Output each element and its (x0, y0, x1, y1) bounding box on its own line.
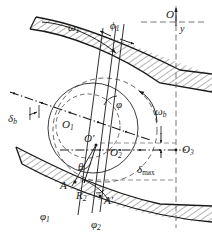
upper-hatched-band (30, 17, 212, 92)
slot-line-mid (92, 26, 116, 213)
label-omega-b: ωb (155, 106, 167, 119)
label-origin-O: O (166, 9, 174, 20)
angle-arcs (78, 96, 117, 193)
dimension-arrow-delta-b (29, 105, 39, 120)
label-O-2: O2 (110, 147, 122, 160)
diagram-canvas (0, 0, 212, 245)
label-axis-y: y (180, 24, 184, 34)
label-delta-b: δb (8, 113, 17, 126)
technical-diagram-figure: ω1 ϕ1 O y φ ωb δb O1 O′ O2 O3 θ δmax A R… (0, 0, 212, 245)
label-point-A: A (60, 180, 67, 191)
label-varphi-1: φ1 (40, 211, 50, 224)
label-O-1: O1 (62, 119, 74, 132)
point-A (74, 181, 77, 184)
label-O-3: O3 (182, 144, 194, 157)
chain-line-horizontal (60, 149, 186, 152)
label-theta: θ (78, 161, 83, 172)
point-A-prime (99, 195, 102, 198)
label-delta-max: δmax (137, 164, 155, 177)
reference-axes (141, 6, 205, 228)
point-O-prime (95, 144, 98, 147)
label-R-2: R2 (76, 190, 86, 203)
label-omega-1: ω1 (68, 22, 80, 35)
label-O-prime: O′ (84, 133, 94, 144)
label-phi-1-top: ϕ1 (110, 20, 119, 33)
label-phi-center: φ (116, 99, 122, 110)
chain-line-left (10, 92, 150, 140)
label-varphi-2: φ2 (91, 219, 101, 232)
label-point-A-prime: A′ (104, 195, 113, 206)
